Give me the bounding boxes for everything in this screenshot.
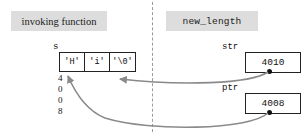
memory-diagram-canvas: invoking function new_length s 'H' 'i' '… — [0, 0, 304, 134]
char-array-s: 'H' 'i' '\0' — [59, 52, 136, 72]
address-digits-vertical: 4 0 0 8 — [58, 73, 63, 117]
variable-label-str: str — [222, 42, 238, 52]
arrow-str-to-array — [120, 72, 268, 83]
array-cell-1: 'i' — [85, 53, 110, 71]
panel-label-new-length: new_length — [166, 11, 258, 31]
pointer-origin-dot-str — [267, 69, 272, 74]
array-cell-0: 'H' — [60, 53, 85, 71]
panel-divider-dashed-line — [152, 2, 153, 132]
variable-label-ptr: ptr — [222, 83, 238, 93]
address-digit-2: 0 — [58, 95, 63, 106]
panel-label-invoking-function: invoking function — [11, 11, 107, 31]
address-digit-0: 4 — [58, 73, 63, 84]
pointer-box-ptr: 4008 — [245, 93, 301, 114]
array-cell-2: '\0' — [110, 53, 135, 71]
pointer-origin-dot-ptr — [267, 110, 272, 115]
address-digit-3: 8 — [58, 106, 63, 117]
variable-label-s: s — [53, 42, 58, 52]
pointer-box-str: 4010 — [245, 52, 301, 73]
address-digit-1: 0 — [58, 84, 63, 95]
